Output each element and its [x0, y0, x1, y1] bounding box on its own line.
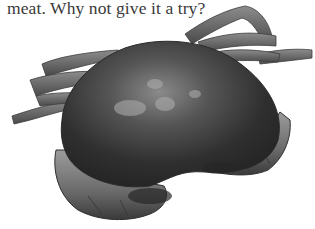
crab-image	[0, 0, 315, 229]
